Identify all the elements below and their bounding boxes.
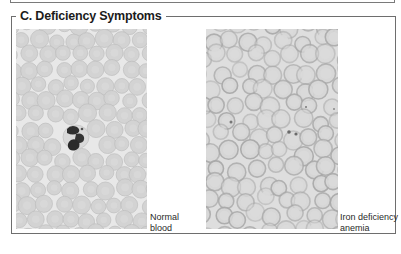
normal-blood-smear-image [16, 29, 147, 229]
section-title: C. Deficiency Symptoms [16, 8, 166, 24]
normal-blood-label: Normal blood [150, 212, 179, 234]
iron-deficiency-label-line1: Iron deficiency [340, 212, 398, 223]
iron-deficiency-label-line2: anemia [340, 223, 398, 234]
normal-blood-micrograph [16, 29, 147, 229]
iron-deficiency-label: Iron deficiency anemia [340, 212, 398, 234]
iron-deficiency-micrograph [206, 29, 338, 229]
iron-deficiency-smear-image [206, 29, 338, 229]
normal-blood-label-line1: Normal [150, 212, 179, 223]
normal-blood-label-line2: blood [150, 223, 179, 234]
previous-section-frame [10, 0, 395, 3]
